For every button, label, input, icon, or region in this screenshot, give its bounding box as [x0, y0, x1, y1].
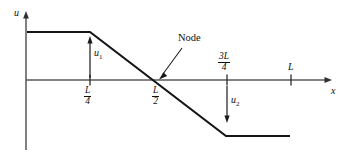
figure-container: u x L 4 L 2 3L 4 L u1 u2 Node — [0, 0, 349, 161]
tick-label-quarter-denominator: 4 — [84, 97, 91, 107]
x-axis-group — [26, 77, 332, 83]
tick-label-three-quarter-denominator: 4 — [218, 63, 230, 73]
u1-arrow-icon — [87, 36, 92, 78]
node-leader-arrow-icon — [159, 48, 182, 80]
tick-label-half-numerator: L — [152, 86, 159, 96]
tick-label-three-quarter-numerator: 3L — [218, 52, 230, 62]
tick-label-three-quarter: 3L 4 — [218, 52, 230, 73]
tick-label-quarter-numerator: L — [84, 86, 91, 96]
tick-label-half-denominator: 2 — [152, 97, 159, 107]
tick-label-half: L 2 — [152, 86, 159, 107]
u2-label: u2 — [231, 95, 240, 108]
node-label: Node — [178, 33, 201, 44]
u2-arrow-icon — [224, 86, 229, 123]
x-axis-label: x — [331, 86, 335, 96]
y-axis-label: u — [14, 8, 19, 18]
x-axis-arrowhead-icon — [325, 77, 333, 83]
displacement-curve — [27, 32, 290, 136]
tick-label-full: L — [288, 62, 294, 72]
y-axis-arrowhead-icon — [23, 11, 29, 19]
tick-label-quarter: L 4 — [84, 86, 91, 107]
u1-label-subscript: 1 — [99, 53, 103, 61]
u2-label-subscript: 2 — [236, 100, 240, 108]
u1-label: u1 — [94, 48, 103, 61]
plot-svg — [0, 0, 349, 161]
